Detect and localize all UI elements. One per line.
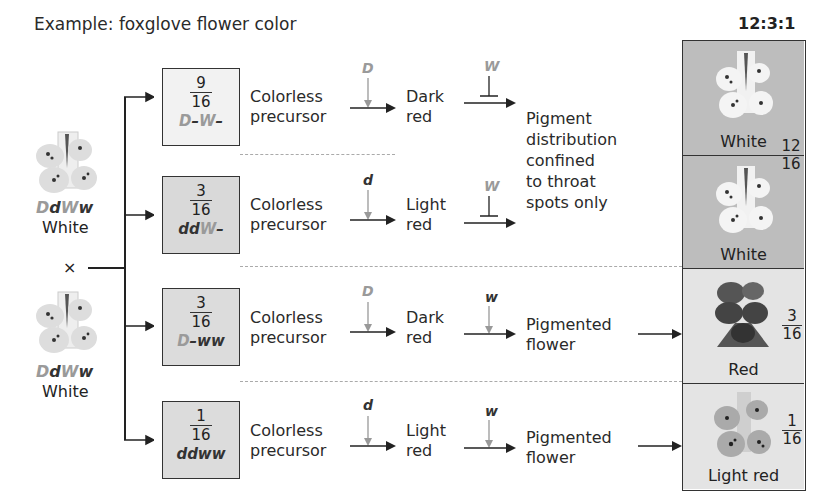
result-arrows: [638, 326, 684, 451]
intermediate-pigment-label: Dark red: [406, 87, 456, 127]
fraction-light-red: 116: [780, 413, 804, 448]
intermediate-pigment-label: Light red: [406, 195, 456, 235]
step2-arrows: [462, 76, 522, 466]
intermediate-pigment-label: Light red: [406, 421, 456, 461]
parent2-genotype: DdWw: [36, 362, 93, 381]
phenotype-ratio: 12:3:1: [738, 14, 795, 33]
fraction-red: 316: [780, 308, 804, 343]
white-foxglove-flower-icon: [713, 164, 777, 240]
row-separator: [240, 266, 682, 267]
light-red-foxglove-flower-icon: [711, 390, 775, 464]
parent1-phenotype: White: [42, 218, 89, 237]
cross-connector-line: [88, 267, 126, 269]
pigmented-flower-result: Pigmented flower: [526, 315, 636, 355]
parent2-phenotype: White: [42, 382, 89, 401]
branch-arrows: [124, 90, 154, 450]
throat-spots-result: Pigment distribution confined to throat …: [526, 108, 617, 213]
genotype-box-ddww: 116 ddww: [162, 401, 240, 479]
white-foxglove-flower-icon: [32, 128, 102, 196]
precursor-label: Colorless precursor: [250, 87, 340, 127]
row-separator: [240, 154, 395, 155]
precursor-label: Colorless precursor: [250, 308, 340, 348]
cross-symbol: ×: [63, 258, 76, 277]
parent1-genotype: DdWw: [36, 198, 93, 217]
enzyme2-allele: W: [484, 58, 499, 74]
intermediate-pigment-label: Dark red: [406, 308, 456, 348]
enzyme1-allele: D: [362, 60, 374, 76]
precursor-label: Colorless precursor: [250, 421, 340, 461]
pigmented-flower-result: Pigmented flower: [526, 428, 636, 468]
genotype-box-ddW: 316 ddW–: [162, 176, 240, 254]
row-separator: [240, 381, 682, 382]
precursor-label: Colorless precursor: [250, 195, 340, 235]
red-foxglove-flower-icon: [711, 279, 775, 351]
step1-arrows: [348, 78, 398, 458]
white-foxglove-flower-icon: [713, 49, 777, 125]
white-foxglove-flower-icon: [32, 288, 102, 356]
fraction-white: 1216: [778, 138, 804, 173]
figure-title: Example: foxglove flower color: [34, 14, 296, 34]
genotype-box-D-ww: 316 D–ww: [162, 288, 240, 366]
genotype-box-D-W: 916 D–W–: [162, 68, 240, 146]
